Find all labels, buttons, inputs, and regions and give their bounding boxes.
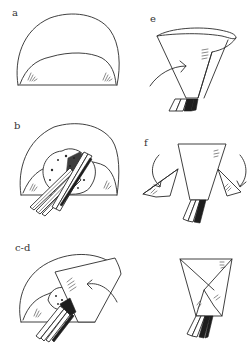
panel-final-drawing — [180, 259, 232, 338]
panel-f-drawing — [143, 144, 246, 223]
panel-a-drawing — [17, 14, 119, 85]
panel-b-drawing — [20, 124, 119, 216]
line-art — [0, 0, 249, 347]
panel-e-drawing — [150, 28, 236, 111]
folding-illustration: a b c-d e f — [0, 0, 249, 347]
panel-c-d-drawing — [20, 254, 121, 342]
